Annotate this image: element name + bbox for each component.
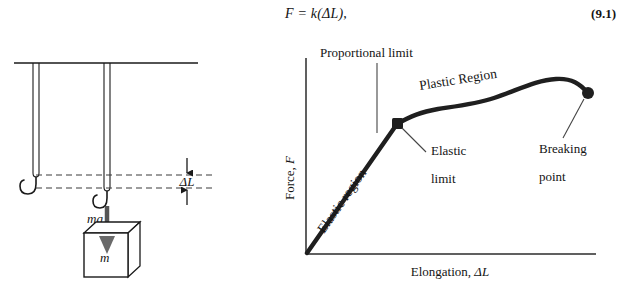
mass-block xyxy=(84,222,140,277)
elastic-region-label: Elastic region xyxy=(314,166,369,236)
unloaded-hook-icon xyxy=(20,177,36,194)
proportional-limit-label: Proportional limit xyxy=(320,45,413,60)
breaking-point-marker xyxy=(582,87,594,99)
elastic-limit-marker xyxy=(392,118,403,129)
elastic-limit-leader xyxy=(402,128,426,152)
mass-label: m xyxy=(100,250,109,265)
stretched-rod xyxy=(104,63,110,191)
equation-row: F = k(ΔL), (9.1) xyxy=(0,6,624,30)
elastic-limit-label-line1: Elastic xyxy=(431,143,467,158)
breaking-point-leader xyxy=(563,99,584,138)
delta-l-label: ΔL xyxy=(179,174,195,189)
y-axis-title-symbol: F xyxy=(282,155,297,165)
breaking-point-label-line1: Breaking xyxy=(539,141,587,156)
x-axis-title: Elongation, ΔL xyxy=(411,264,489,279)
loaded-hook-icon xyxy=(93,191,107,208)
equation-formula: F = k(ΔL), xyxy=(285,6,347,22)
x-axis-title-symbol: ΔL xyxy=(473,264,489,279)
y-axis-title-main: Force, xyxy=(282,164,297,200)
x-axis-title-main: Elongation, xyxy=(411,264,475,279)
force-elongation-graph: Proportional limit Elastic limit Breakin… xyxy=(280,38,624,283)
stress-strain-curve xyxy=(307,79,588,253)
figure-page: F = k(ΔL), (9.1) xyxy=(0,0,624,283)
elastic-limit-label-line2: limit xyxy=(431,171,456,186)
unstretched-rod xyxy=(33,63,39,177)
hanging-spring-diagram: ΔL mg m xyxy=(0,40,290,283)
breaking-point-label-line2: point xyxy=(539,169,566,184)
plastic-region-label: Plastic Region xyxy=(418,66,498,93)
y-axis-title: Force, F xyxy=(282,155,297,200)
equation-number: (9.1) xyxy=(591,6,616,22)
